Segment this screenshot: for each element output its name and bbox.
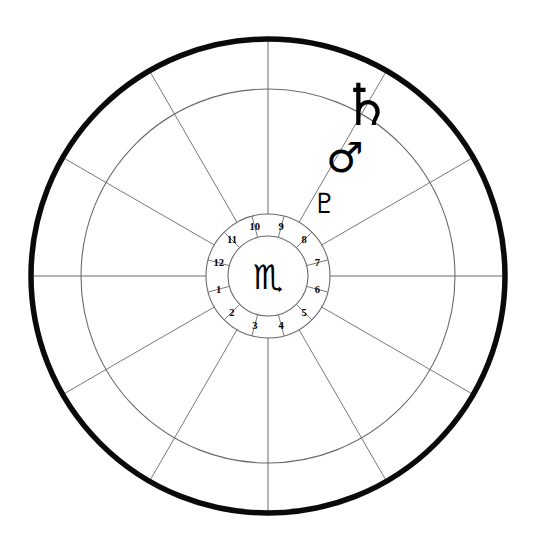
house-number-label: 6 — [315, 284, 320, 295]
house-number-label: 4 — [279, 320, 285, 331]
house-number-label: 3 — [252, 320, 257, 331]
center-sign-glyph-group: ♏ — [253, 257, 283, 297]
house-number-label: 11 — [227, 234, 237, 245]
house-number-label: 10 — [250, 221, 261, 232]
house-number-label: 12 — [213, 257, 224, 268]
scorpio-sign-icon: ♏ — [253, 257, 283, 297]
house-number-label: 2 — [229, 307, 234, 318]
house-number-label: 5 — [301, 307, 306, 318]
house-number-label: 8 — [301, 234, 306, 245]
house-number-label: 7 — [315, 257, 320, 268]
pluto-planet-icon: ♇ — [312, 187, 337, 220]
house-number-label: 9 — [279, 221, 284, 232]
chart-wheel-svg: 123456789101112 ♏ ♇♂♄ — [0, 0, 536, 559]
astrology-chart-wheel: 123456789101112 ♏ ♇♂♄ — [0, 0, 536, 559]
mars-planet-icon: ♂ — [326, 133, 364, 182]
house-number-label: 1 — [216, 284, 221, 295]
saturn-planet-icon: ♄ — [341, 71, 393, 139]
